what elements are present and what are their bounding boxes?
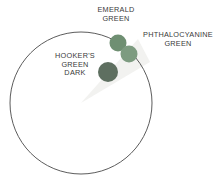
color-wheel-diagram: EMERALD GREEN PHTHALOCYANINE GREEN HOOKE… xyxy=(0,0,224,188)
hookers-green-dark-label-line-3: DARK xyxy=(38,69,112,78)
phthalocyanine-green-label-line-2: GREEN xyxy=(132,40,224,49)
wheel-graphics xyxy=(0,0,224,188)
emerald-green-label-line-2: GREEN xyxy=(78,15,154,24)
phthalocyanine-green-label: PHTHALOCYANINE GREEN xyxy=(132,31,224,48)
hookers-green-dark-label: HOOKER'S GREEN DARK xyxy=(38,52,112,78)
emerald-green-label: EMERALD GREEN xyxy=(78,6,154,23)
